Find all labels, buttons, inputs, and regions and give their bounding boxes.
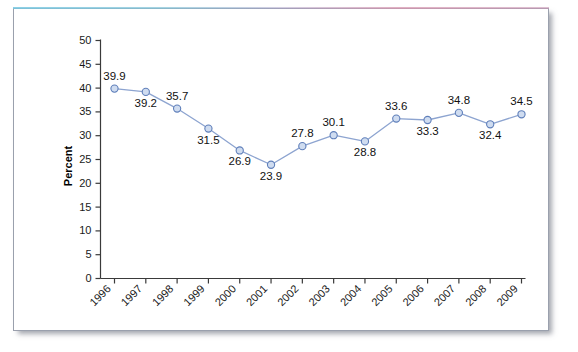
- line-chart: 05101520253035404550Percent1996199719981…: [0, 0, 578, 352]
- y-axis-tick-label: 15: [79, 201, 91, 213]
- data-point-label: 39.2: [135, 97, 157, 109]
- data-point-marker[interactable]: [361, 138, 368, 145]
- data-point-label: 35.7: [166, 90, 188, 102]
- data-point-marker[interactable]: [393, 115, 400, 122]
- x-axis-tick-label: 2008: [463, 282, 489, 308]
- y-axis-tick-label: 45: [79, 58, 91, 70]
- data-point-marker[interactable]: [111, 85, 118, 92]
- data-point-label: 34.5: [510, 95, 532, 107]
- data-point-label: 33.6: [385, 100, 407, 112]
- data-point-marker[interactable]: [267, 161, 274, 168]
- data-point-label: 23.9: [260, 170, 282, 182]
- data-point-marker[interactable]: [424, 116, 431, 123]
- x-axis-tick-label: 2001: [244, 282, 270, 308]
- data-point-label: 26.9: [229, 155, 251, 167]
- y-axis-tick-label: 25: [79, 153, 91, 165]
- y-axis-tick-label: 50: [79, 34, 91, 46]
- data-point-marker[interactable]: [518, 111, 525, 118]
- x-axis-tick-label: 2009: [494, 282, 520, 308]
- data-point-label: 27.8: [291, 127, 313, 139]
- x-axis-tick-label: 1999: [181, 282, 207, 308]
- y-axis-tick-label: 30: [79, 129, 91, 141]
- x-axis-tick-label: 2005: [369, 282, 395, 308]
- data-point-marker[interactable]: [487, 121, 494, 128]
- y-axis-title: Percent: [62, 145, 74, 186]
- data-point-label: 31.5: [197, 134, 219, 146]
- x-axis-tick-label: 2007: [432, 282, 458, 308]
- data-point-label: 28.8: [354, 146, 376, 158]
- x-axis-tick-label: 1996: [87, 282, 113, 308]
- data-point-label: 32.4: [479, 129, 502, 141]
- x-axis-tick-label: 1998: [150, 282, 176, 308]
- data-point-label: 30.1: [322, 116, 344, 128]
- x-axis-tick-label: 1997: [118, 282, 144, 308]
- y-axis-tick-label: 40: [79, 82, 91, 94]
- y-axis-tick-label: 20: [79, 177, 91, 189]
- data-point-label: 39.9: [103, 70, 125, 82]
- x-axis-tick-label: 2004: [338, 282, 364, 308]
- chart-plot-area: 05101520253035404550Percent1996199719981…: [0, 0, 578, 352]
- x-axis-tick-label: 2000: [212, 282, 238, 308]
- data-point-marker[interactable]: [330, 132, 337, 139]
- y-axis-tick-label: 0: [85, 272, 91, 284]
- x-axis-tick-label: 2003: [306, 282, 332, 308]
- data-point-label: 33.3: [416, 125, 438, 137]
- y-axis-tick-label: 5: [85, 248, 91, 260]
- x-axis-tick-label: 2006: [400, 282, 426, 308]
- y-axis-tick-label: 35: [79, 105, 91, 117]
- data-point-marker[interactable]: [455, 109, 462, 116]
- chart-page: 05101520253035404550Percent1996199719981…: [0, 0, 578, 352]
- y-axis-tick-label: 10: [79, 224, 91, 236]
- data-point-marker[interactable]: [174, 105, 181, 112]
- data-point-marker[interactable]: [142, 88, 149, 95]
- data-point-marker[interactable]: [299, 143, 306, 150]
- x-axis-tick-label: 2002: [275, 282, 301, 308]
- data-point-label: 34.8: [448, 94, 470, 106]
- data-point-marker[interactable]: [205, 125, 212, 132]
- data-point-marker[interactable]: [236, 147, 243, 154]
